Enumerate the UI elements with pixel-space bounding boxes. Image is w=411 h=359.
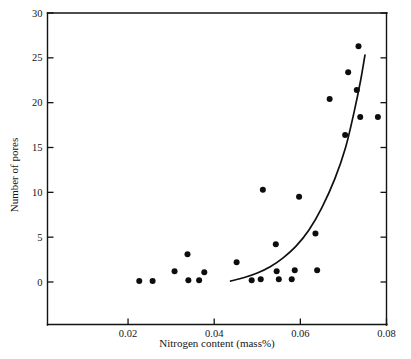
data-point	[184, 251, 190, 257]
data-point	[327, 96, 333, 102]
data-point	[289, 276, 295, 282]
x-axis-title: Nitrogen content (mass%)	[159, 337, 275, 350]
data-point	[196, 277, 202, 283]
data-point	[342, 132, 348, 138]
data-point	[296, 194, 302, 200]
data-point	[314, 267, 320, 273]
y-tick-label-25: 25	[32, 52, 43, 63]
y-axis-title: Number of pores	[8, 138, 20, 213]
plot-frame	[48, 13, 388, 325]
y-axis-ticks-left	[48, 13, 54, 282]
data-point	[258, 276, 264, 282]
data-point	[312, 231, 318, 237]
y-axis-tick-labels: 051015202530	[32, 8, 43, 288]
data-point	[136, 278, 142, 284]
y-tick-label-15: 15	[32, 142, 43, 153]
x-axis-ticks	[128, 319, 386, 325]
y-tick-label-0: 0	[37, 277, 42, 288]
data-point	[201, 269, 207, 275]
data-point	[150, 278, 156, 284]
data-point	[292, 267, 298, 273]
y-tick-label-5: 5	[37, 232, 42, 243]
data-point	[260, 187, 266, 193]
chart-figure: 051015202530 0.020.040.060.08 Nitrogen c…	[0, 0, 411, 359]
x-tick-label-0.06: 0.06	[291, 328, 309, 339]
trend-line	[231, 55, 365, 281]
data-point	[356, 43, 362, 49]
y-tick-label-20: 20	[32, 97, 43, 108]
x-tick-label-0.08: 0.08	[377, 328, 395, 339]
data-point	[274, 268, 280, 274]
y-tick-label-30: 30	[32, 8, 43, 19]
data-point	[276, 276, 282, 282]
data-point	[172, 268, 178, 274]
x-tick-label-0.02: 0.02	[119, 328, 137, 339]
data-point	[273, 241, 279, 247]
data-point	[375, 114, 381, 120]
data-point	[357, 114, 363, 120]
data-point	[354, 87, 360, 93]
scatter-plot-canvas: 051015202530 0.020.040.060.08 Nitrogen c…	[0, 0, 411, 359]
data-points	[136, 43, 381, 284]
data-point	[249, 277, 255, 283]
y-axis-ticks-right	[381, 13, 387, 282]
data-point	[185, 277, 191, 283]
data-point	[234, 259, 240, 265]
data-point	[345, 69, 351, 75]
y-tick-label-10: 10	[32, 187, 43, 198]
